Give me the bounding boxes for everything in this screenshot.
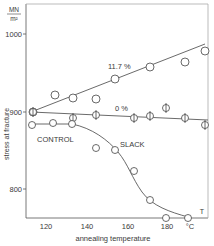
y-axis-ticks — [23, 34, 26, 189]
label-slack: SLACK — [120, 140, 145, 149]
stress-vs-annealing-chart: 1000 900 800 MN m² stress at fracture 12… — [0, 0, 214, 246]
y-unit-numerator: MN — [9, 6, 19, 13]
x-tick-140: 140 — [81, 222, 94, 231]
y-tick-800: 800 — [9, 185, 22, 194]
x-axis-symbol: T — [200, 208, 205, 215]
x-tick-160: 160 — [122, 222, 135, 231]
label-0: 0 % — [115, 104, 128, 113]
series-control-markers — [29, 120, 76, 129]
label-control: CONTROL — [37, 135, 74, 144]
x-tick-180: 180 — [161, 222, 174, 231]
slack-curve — [72, 124, 188, 217]
y-axis-unit: MN m² — [7, 6, 21, 22]
x-tick-120: 120 — [40, 222, 53, 231]
y-tick-900: 900 — [9, 108, 22, 117]
series-labels: 11.7 % 0 % CONTROL SLACK — [37, 62, 145, 149]
y-unit-denominator: m² — [10, 15, 18, 22]
y-tick-1000: 1000 — [5, 30, 22, 39]
x-unit: °C — [186, 222, 195, 231]
x-axis-title: annealing temperature — [75, 234, 150, 243]
series-slack-markers — [93, 145, 192, 222]
y-axis-title: stress at fracture — [3, 108, 10, 160]
x-axis-tick-labels: 120 140 160 180 °C — [40, 222, 195, 231]
label-11-7: 11.7 % — [108, 62, 131, 71]
